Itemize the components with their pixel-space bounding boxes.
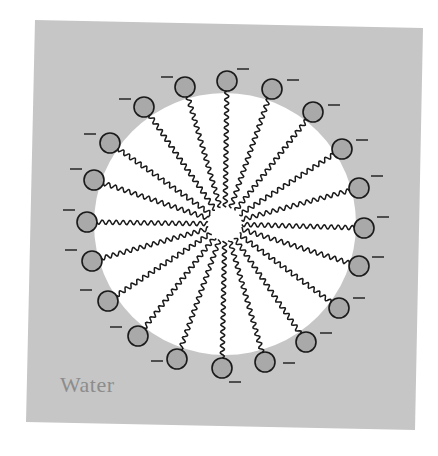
head-2: [217, 71, 237, 91]
head-9: [329, 298, 349, 318]
head-5: [332, 139, 352, 159]
head-19: [100, 133, 120, 153]
head-16: [82, 251, 102, 271]
head-3: [262, 79, 282, 99]
head-20: [134, 97, 154, 117]
micelle-diagram: Water: [0, 0, 438, 456]
head-8: [349, 256, 369, 276]
head-1: [175, 77, 195, 97]
head-4: [303, 102, 323, 122]
water-label: Water: [60, 372, 114, 398]
head-10: [296, 332, 316, 352]
head-15: [98, 291, 118, 311]
head-6: [349, 178, 369, 198]
head-18: [84, 170, 104, 190]
head-7: [354, 218, 374, 238]
head-14: [128, 326, 148, 346]
head-13: [167, 349, 187, 369]
head-12: [212, 358, 232, 378]
head-17: [77, 212, 97, 232]
head-11: [255, 352, 275, 372]
